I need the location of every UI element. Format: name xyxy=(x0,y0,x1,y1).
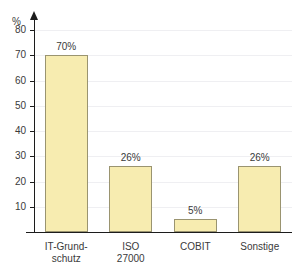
y-axis-tick xyxy=(30,131,35,132)
bar-value-label: 5% xyxy=(165,206,225,216)
bar xyxy=(238,166,281,232)
category-label-line: schutz xyxy=(30,253,102,265)
bar xyxy=(109,166,152,232)
y-axis-tick xyxy=(30,55,35,56)
bar-value-label: 26% xyxy=(230,153,290,163)
y-axis-tick xyxy=(30,106,35,107)
y-axis-tick xyxy=(30,30,35,31)
x-axis-category-label: COBIT xyxy=(159,241,231,253)
y-axis-tick-label: 70 xyxy=(2,50,26,60)
y-axis-tick-label: 20 xyxy=(2,177,26,187)
y-axis-tick xyxy=(30,182,35,183)
bar xyxy=(174,219,217,232)
category-label-line: ISO xyxy=(95,241,167,253)
y-axis-tick xyxy=(30,207,35,208)
y-axis-tick xyxy=(30,156,35,157)
y-axis-tick xyxy=(30,81,35,82)
bar-value-label: 70% xyxy=(36,42,96,52)
x-axis-category-label: IT-Grund-schutz xyxy=(30,241,102,265)
bar-chart: % 1020304050607080 70%26%5%26% IT-Grund-… xyxy=(0,0,302,280)
x-axis-line xyxy=(26,232,292,233)
y-axis-line xyxy=(34,18,35,233)
x-axis-category-label: ISO27000 xyxy=(95,241,167,265)
y-axis-tick-label: 50 xyxy=(2,101,26,111)
y-axis-arrow-icon xyxy=(30,11,38,20)
category-label-line: COBIT xyxy=(159,241,231,253)
y-axis-tick-label: 60 xyxy=(2,76,26,86)
category-label-line: Sonstige xyxy=(224,241,296,253)
y-axis-tick-label: 80 xyxy=(2,25,26,35)
gridline xyxy=(35,30,292,31)
y-axis-tick-label: 30 xyxy=(2,151,26,161)
bar xyxy=(45,55,88,232)
x-axis-category-label: Sonstige xyxy=(224,241,296,253)
y-axis-tick-label: 10 xyxy=(2,202,26,212)
y-axis-tick-label: 40 xyxy=(2,126,26,136)
category-label-line: 27000 xyxy=(95,253,167,265)
bar-value-label: 26% xyxy=(101,153,161,163)
category-label-line: IT-Grund- xyxy=(30,241,102,253)
